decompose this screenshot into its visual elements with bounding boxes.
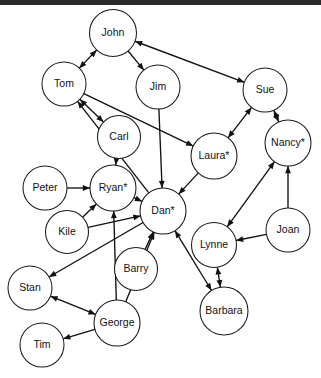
node-circle-barbara[interactable]	[200, 287, 248, 335]
arrowhead-barbara-to-lynne	[216, 267, 222, 275]
node-circle-george[interactable]	[94, 300, 140, 346]
arrowhead-jim-to-dan	[159, 181, 165, 188]
edge-lynne-nancy	[227, 162, 274, 227]
arrowhead-george-to-ryan	[111, 211, 117, 218]
node-carl[interactable]: Carl	[98, 116, 141, 159]
node-nancy[interactable]: Nancy*	[265, 120, 311, 166]
node-circle-joan[interactable]	[266, 208, 310, 252]
node-dan[interactable]: Dan*	[140, 188, 186, 234]
node-circle-lynne[interactable]	[192, 223, 237, 268]
node-circle-carl[interactable]	[98, 116, 141, 159]
arrowhead-nancy-to-lynne	[227, 219, 234, 227]
arrowhead-john-to-sue	[237, 77, 245, 82]
arrowhead-ryan-to-dan	[134, 196, 142, 202]
node-circle-peter[interactable]	[23, 166, 67, 210]
node-tim[interactable]: Tim	[20, 323, 64, 367]
arrowhead-dan-to-barbara	[205, 283, 211, 291]
edge-george-stan	[50, 296, 95, 314]
node-lynne[interactable]: Lynne	[192, 223, 237, 268]
node-ryan[interactable]: Ryan*	[90, 165, 136, 211]
arrowhead-george-to-tim	[63, 334, 71, 340]
arrowhead-barbara-to-dan	[175, 231, 181, 239]
edge-jim-dan	[159, 109, 162, 188]
arrowhead-kile-to-dan	[133, 215, 141, 221]
node-circle-tom[interactable]	[42, 62, 86, 106]
node-circle-kile[interactable]	[46, 211, 89, 254]
node-george[interactable]: George	[94, 300, 140, 346]
node-circle-stan[interactable]	[8, 266, 52, 310]
node-circle-barry[interactable]	[115, 248, 158, 291]
node-circle-sue[interactable]	[243, 68, 287, 112]
arrowhead-lynne-to-barbara	[216, 280, 222, 288]
node-jim[interactable]: Jim	[136, 65, 180, 109]
arrowhead-lynne-to-nancy	[268, 162, 275, 170]
node-barbara[interactable]: Barbara	[200, 287, 248, 335]
arrowhead-dan-to-stan	[49, 271, 57, 277]
node-sue[interactable]: Sue	[243, 68, 287, 112]
node-circle-ryan[interactable]	[90, 165, 136, 211]
node-laura[interactable]: Laura*	[191, 133, 237, 179]
edge-george-ryan	[114, 211, 117, 300]
node-circle-jim[interactable]	[136, 65, 180, 109]
node-barry[interactable]: Barry	[115, 248, 158, 291]
node-peter[interactable]: Peter	[23, 166, 67, 210]
node-circle-nancy[interactable]	[265, 120, 311, 166]
graph-viewer: JohnTomJimSueCarlLaura*Nancy*PeterRyan*D…	[0, 0, 321, 378]
node-joan[interactable]: Joan	[266, 208, 310, 252]
network-graph[interactable]: JohnTomJimSueCarlLaura*Nancy*PeterRyan*D…	[0, 0, 321, 378]
arrowhead-peter-to-ryan	[83, 185, 90, 191]
arrowhead-george-to-stan	[50, 296, 58, 301]
arrowhead-stan-to-george	[88, 309, 96, 314]
arrowhead-joan-to-nancy	[285, 166, 291, 173]
node-stan[interactable]: Stan	[8, 266, 52, 310]
node-circle-tim[interactable]	[20, 323, 64, 367]
arrowhead-sue-to-john	[135, 41, 143, 46]
node-tom[interactable]: Tom	[42, 62, 86, 106]
node-john[interactable]: John	[90, 10, 137, 57]
node-circle-laura[interactable]	[191, 133, 237, 179]
node-circle-john[interactable]	[90, 10, 137, 57]
arrowhead-tom-to-laura	[186, 140, 194, 146]
node-circle-dan[interactable]	[140, 188, 186, 234]
arrowhead-joan-to-lynne	[236, 236, 244, 242]
node-layer: JohnTomJimSueCarlLaura*Nancy*PeterRyan*D…	[8, 10, 311, 368]
node-kile[interactable]: Kile	[46, 211, 89, 254]
